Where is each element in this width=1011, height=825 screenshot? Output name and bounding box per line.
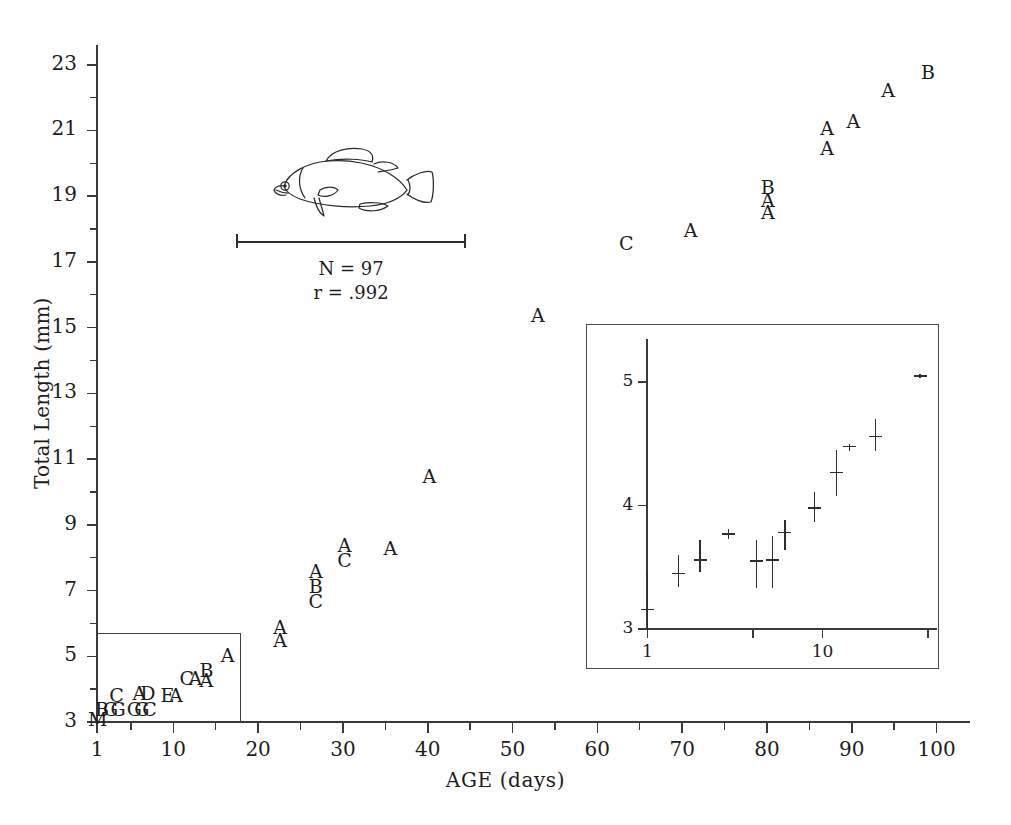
x-axis-major-tick [936, 722, 938, 733]
x-axis-minor-tick [893, 722, 894, 730]
y-axis-major-tick [87, 327, 97, 329]
inset-y-axis-tick [638, 505, 647, 506]
inset-x-axis-tick [927, 629, 928, 638]
x-axis-tick-label: 20 [228, 737, 288, 761]
sample-size-annotation: N = 97 [236, 258, 466, 279]
inset-y-axis-tick-label: 4 [599, 494, 633, 514]
inset-data-point-marker [722, 533, 735, 534]
x-axis-minor-tick [639, 722, 640, 730]
data-point-label: C [307, 592, 325, 611]
inset-y-axis-tick [638, 381, 647, 382]
x-axis-major-tick [173, 722, 175, 733]
inset-data-point-marker [808, 507, 821, 508]
scale-bar-cap-left [236, 234, 238, 248]
inset-data-point-marker [869, 436, 882, 437]
y-axis-major-tick [87, 64, 97, 66]
y-axis-major-tick [87, 261, 97, 263]
x-axis-major-tick [427, 722, 429, 733]
x-axis-major-tick [342, 722, 344, 733]
data-point-label: A [529, 306, 547, 325]
correlation-annotation: r = .992 [236, 282, 466, 303]
inset-data-point-marker [914, 375, 927, 376]
y-axis-tick-label: 9 [19, 511, 77, 535]
y-axis-tick-label: 7 [19, 577, 77, 601]
inset-data-point-marker [750, 560, 763, 561]
y-axis-major-tick [87, 524, 97, 526]
inset-panel: 345 110 [586, 324, 939, 669]
x-axis-minor-tick [300, 722, 301, 730]
x-axis-minor-tick [130, 722, 131, 730]
x-axis-minor-tick [215, 722, 216, 730]
x-axis-minor-tick [724, 722, 725, 730]
inset-error-bar [647, 573, 648, 631]
y-axis-tick-label: 15 [19, 314, 77, 338]
x-axis-major-tick [257, 722, 259, 733]
x-axis-tick-label: 70 [652, 737, 712, 761]
inset-error-bar [772, 536, 773, 588]
inset-error-bar [756, 540, 757, 588]
x-axis-tick-label: 50 [483, 737, 543, 761]
y-axis-minor-tick [90, 426, 97, 427]
y-axis-minor-tick [90, 491, 97, 492]
y-axis-minor-tick [90, 623, 97, 624]
scale-bar-line [236, 241, 466, 243]
x-axis-major-tick [681, 722, 683, 733]
figure-canvas: Total Length (mm) AGE (days) 35791113151… [0, 0, 1011, 825]
data-point-label: A [818, 139, 836, 158]
inset-x-axis-line [646, 628, 937, 630]
inset-x-axis-tick [752, 629, 753, 638]
inset-data-point-marker [672, 573, 685, 574]
y-axis-tick-label: 3 [19, 708, 77, 732]
x-axis-minor-tick [385, 722, 386, 730]
inset-error-bar [699, 540, 700, 572]
inset-y-axis-tick-label: 3 [599, 617, 633, 637]
inset-data-point-marker [641, 609, 654, 610]
x-axis-major-tick [851, 722, 853, 733]
inset-error-bar [784, 520, 785, 550]
x-axis-title: AGE (days) [0, 768, 1011, 792]
x-axis-tick-label: 10 [143, 737, 203, 761]
x-axis-tick-label: 40 [398, 737, 458, 761]
data-point-label: A [818, 119, 836, 138]
scale-bar [236, 234, 466, 248]
data-point-label: A [759, 203, 777, 222]
y-axis-tick-label: 23 [19, 51, 77, 75]
x-axis-tick-label: 80 [737, 737, 797, 761]
x-axis-major-tick [766, 722, 768, 733]
inset-data-point-marker [766, 559, 779, 560]
inset-error-bar [678, 555, 679, 587]
data-point-label: C [617, 234, 635, 253]
y-axis-major-tick [87, 130, 97, 132]
x-axis-tick-label: 30 [313, 737, 373, 761]
y-axis-tick-label: 13 [19, 379, 77, 403]
x-axis-tick-label: 1 [67, 737, 127, 761]
y-axis-minor-tick [90, 557, 97, 558]
x-axis-major-tick [597, 722, 599, 733]
x-axis-major-tick [512, 722, 514, 733]
y-axis-major-tick [87, 458, 97, 460]
y-axis-tick-label: 17 [19, 248, 77, 272]
data-point-label: A [381, 539, 399, 558]
data-point-label: A [271, 631, 289, 650]
y-axis-tick-label: 19 [19, 182, 77, 206]
x-axis-tick-label: 90 [822, 737, 882, 761]
y-axis-minor-tick [90, 294, 97, 295]
inset-y-axis-tick-label: 5 [599, 370, 633, 390]
y-axis-major-tick [87, 195, 97, 197]
data-point-label: A [879, 81, 897, 100]
y-axis-minor-tick [90, 228, 97, 229]
data-point-label: A [420, 467, 438, 486]
y-axis-tick-label: 5 [19, 642, 77, 666]
fish-illustration [262, 146, 442, 218]
data-point-label: B [919, 63, 937, 82]
data-point-label: A [682, 221, 700, 240]
inset-data-point-marker [778, 532, 791, 533]
y-axis-minor-tick [90, 163, 97, 164]
y-axis-tick-label: 11 [19, 445, 77, 469]
x-axis-minor-tick [554, 722, 555, 730]
scale-bar-cap-right [464, 234, 466, 248]
inset-data-point-marker [830, 472, 843, 473]
inset-x-axis-tick [822, 629, 823, 638]
data-point-label: A [844, 112, 862, 131]
y-axis-minor-tick [90, 97, 97, 98]
